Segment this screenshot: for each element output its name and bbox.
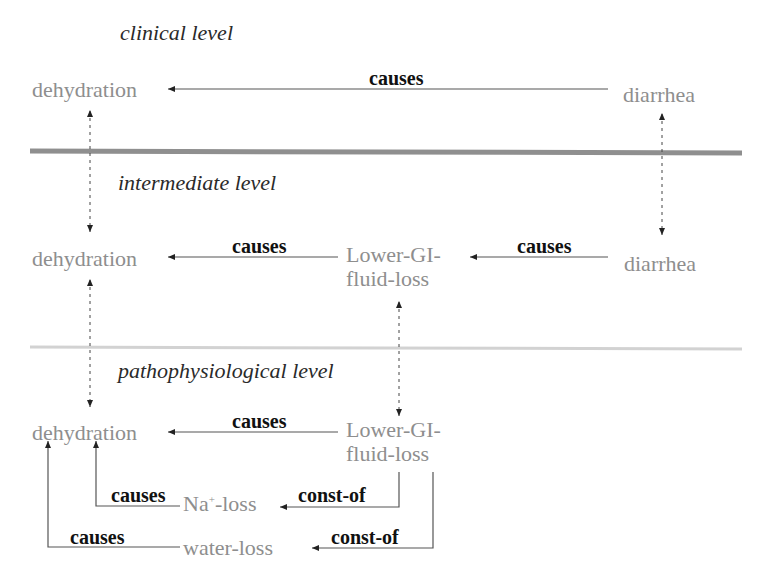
level-title-intermediate: intermediate level — [118, 172, 276, 194]
concept-lower-gi-fluid-loss-patho: Lower-GI- fluid-loss — [346, 418, 441, 466]
relation-label-causes: causes — [70, 527, 124, 547]
concept-line: Lower-GI- — [346, 418, 441, 442]
concept-na-loss: Na+-loss — [183, 493, 256, 515]
relation-label-causes: causes — [517, 236, 571, 256]
concept-line: fluid-loss — [346, 267, 441, 291]
relation-label-causes: causes — [369, 68, 423, 88]
concept-diarrhea-clinical: diarrhea — [623, 84, 695, 106]
concept-dehydration-intermediate: dehydration — [32, 248, 137, 270]
concept-lower-gi-fluid-loss-intermediate: Lower-GI- fluid-loss — [346, 243, 441, 291]
concept-dehydration-clinical: dehydration — [32, 79, 137, 101]
concept-diarrhea-intermediate: diarrhea — [624, 253, 696, 275]
relation-label-causes: causes — [111, 485, 165, 505]
level-title-pathophysiological: pathophysiological level — [118, 360, 334, 382]
relation-label-causes: causes — [232, 236, 286, 256]
concept-na-suffix: -loss — [215, 491, 257, 516]
concept-line: Lower-GI- — [346, 243, 441, 267]
level-title-clinical: clinical level — [120, 22, 233, 44]
concept-line: fluid-loss — [346, 442, 441, 466]
relation-label-causes: causes — [232, 411, 286, 431]
relation-label-const-of: const-of — [331, 527, 399, 547]
concept-dehydration-patho: dehydration — [32, 422, 137, 444]
concept-na-prefix: Na — [183, 491, 209, 516]
relation-label-const-of: const-of — [298, 485, 366, 505]
divider-clinical-intermediate — [30, 151, 742, 153]
concept-water-loss: water-loss — [183, 537, 273, 559]
divider-intermediate-pathophysiological — [30, 347, 742, 349]
